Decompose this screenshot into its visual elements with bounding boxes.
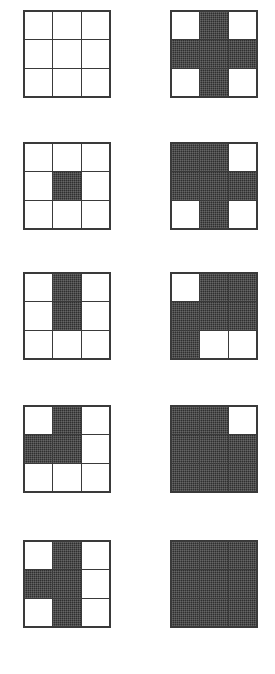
- grid-5-left-cell-r3c3: [82, 599, 109, 626]
- grid-3-left-cell-r2c1: [25, 302, 52, 329]
- grid-4-right: [170, 405, 258, 493]
- grid-3-left-cell-r3c3: [82, 331, 109, 358]
- grid-5-right-cell-r3c1: [172, 599, 199, 626]
- grid-5-right-cell-r2c3: [229, 570, 256, 597]
- grid-1-right-cell-r2c2: [200, 40, 227, 67]
- grid-2-right-cell-r1c1: [172, 144, 199, 171]
- grid-5-right-cell-r1c1: [172, 542, 199, 569]
- grid-3-right-cell-r2c2: [200, 302, 227, 329]
- grid-pair-row-2: [0, 142, 275, 232]
- grid-4-left-cell-r1c3: [82, 407, 109, 434]
- grid-2-left-cell-r3c2: [53, 201, 80, 228]
- grid-5-right-cell-r2c2: [200, 570, 227, 597]
- grid-4-right-cell-r2c3: [229, 435, 256, 462]
- grid-3-right-cell-r1c3: [229, 274, 256, 301]
- grid-4-left-cell-r1c1: [25, 407, 52, 434]
- grid-4-right-cell-r2c1: [172, 435, 199, 462]
- grid-3-right-cell-r1c2: [200, 274, 227, 301]
- grid-2-right-cell-r1c2: [200, 144, 227, 171]
- grid-5-right-cell-r1c2: [200, 542, 227, 569]
- grid-4-right-cell-r1c1: [172, 407, 199, 434]
- grid-4-left-cell-r2c1: [25, 435, 52, 462]
- grid-pair-row-4: [0, 405, 275, 495]
- grid-2-right-cell-r3c2: [200, 201, 227, 228]
- grid-3-left-cell-r3c1: [25, 331, 52, 358]
- grid-3-left: [23, 272, 111, 360]
- grid-4-left-cell-r2c2: [53, 435, 80, 462]
- grid-5-left-cell-r1c3: [82, 542, 109, 569]
- grid-3-right-cell-r3c1: [172, 331, 199, 358]
- grid-4-right-cell-r3c3: [229, 464, 256, 491]
- grid-5-right-cell-r3c3: [229, 599, 256, 626]
- grid-3-left-cell-r1c3: [82, 274, 109, 301]
- grid-5-right-cell-r2c1: [172, 570, 199, 597]
- grid-4-left-cell-r3c3: [82, 464, 109, 491]
- grid-5-right: [170, 540, 258, 628]
- grid-2-right-cell-r1c3: [229, 144, 256, 171]
- grid-pair-row-1: [0, 10, 275, 100]
- grid-5-left-cell-r2c2: [53, 570, 80, 597]
- grid-1-right-cell-r2c1: [172, 40, 199, 67]
- grid-1-left: [23, 10, 111, 98]
- grid-1-right-cell-r1c2: [200, 12, 227, 39]
- grid-2-left-cell-r1c2: [53, 144, 80, 171]
- grid-3-left-cell-r3c2: [53, 331, 80, 358]
- grid-pair-row-5: [0, 540, 275, 630]
- grid-2-left-cell-r3c3: [82, 201, 109, 228]
- grid-5-right-cell-r3c2: [200, 599, 227, 626]
- grid-pattern-figure: [0, 0, 275, 674]
- grid-1-left-cell-r3c3: [82, 69, 109, 96]
- grid-pair-row-3: [0, 272, 275, 362]
- grid-1-right-cell-r3c1: [172, 69, 199, 96]
- grid-1-right-cell-r3c3: [229, 69, 256, 96]
- grid-4-left: [23, 405, 111, 493]
- grid-1-left-cell-r1c2: [53, 12, 80, 39]
- grid-2-left-cell-r2c3: [82, 172, 109, 199]
- grid-1-left-cell-r2c1: [25, 40, 52, 67]
- grid-4-left-cell-r2c3: [82, 435, 109, 462]
- grid-2-right-cell-r2c1: [172, 172, 199, 199]
- grid-3-left-cell-r1c2: [53, 274, 80, 301]
- grid-1-right-cell-r3c2: [200, 69, 227, 96]
- grid-1-left-cell-r2c3: [82, 40, 109, 67]
- grid-3-right-cell-r3c2: [200, 331, 227, 358]
- grid-1-right-cell-r1c3: [229, 12, 256, 39]
- grid-1-left-cell-r1c3: [82, 12, 109, 39]
- grid-4-right-cell-r2c2: [200, 435, 227, 462]
- grid-5-left-cell-r2c3: [82, 570, 109, 597]
- grid-4-left-cell-r3c2: [53, 464, 80, 491]
- grid-2-right-cell-r3c3: [229, 201, 256, 228]
- grid-3-left-cell-r2c3: [82, 302, 109, 329]
- grid-3-right-cell-r3c3: [229, 331, 256, 358]
- grid-1-right: [170, 10, 258, 98]
- grid-3-right-cell-r2c1: [172, 302, 199, 329]
- grid-2-left: [23, 142, 111, 230]
- grid-3-right-cell-r2c3: [229, 302, 256, 329]
- grid-5-left-cell-r1c2: [53, 542, 80, 569]
- grid-5-left-cell-r3c1: [25, 599, 52, 626]
- grid-5-left: [23, 540, 111, 628]
- grid-4-right-cell-r3c1: [172, 464, 199, 491]
- grid-2-left-cell-r1c3: [82, 144, 109, 171]
- grid-1-left-cell-r3c2: [53, 69, 80, 96]
- grid-2-left-cell-r2c1: [25, 172, 52, 199]
- grid-5-left-cell-r1c1: [25, 542, 52, 569]
- grid-4-right-cell-r1c2: [200, 407, 227, 434]
- grid-2-right-cell-r2c2: [200, 172, 227, 199]
- grid-2-right: [170, 142, 258, 230]
- grid-4-right-cell-r1c3: [229, 407, 256, 434]
- grid-2-right-cell-r2c3: [229, 172, 256, 199]
- grid-3-right-cell-r1c1: [172, 274, 199, 301]
- grid-1-left-cell-r3c1: [25, 69, 52, 96]
- grid-2-left-cell-r3c1: [25, 201, 52, 228]
- grid-2-right-cell-r3c1: [172, 201, 199, 228]
- grid-3-left-cell-r2c2: [53, 302, 80, 329]
- grid-5-left-cell-r2c1: [25, 570, 52, 597]
- grid-4-left-cell-r1c2: [53, 407, 80, 434]
- grid-3-left-cell-r1c1: [25, 274, 52, 301]
- grid-5-right-cell-r1c3: [229, 542, 256, 569]
- grid-4-right-cell-r3c2: [200, 464, 227, 491]
- grid-1-right-cell-r1c1: [172, 12, 199, 39]
- grid-3-right: [170, 272, 258, 360]
- grid-2-left-cell-r1c1: [25, 144, 52, 171]
